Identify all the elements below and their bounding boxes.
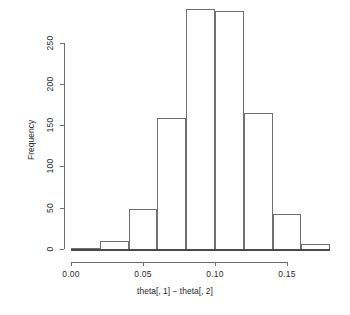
histogram-bars (0, 0, 350, 315)
histogram-plot: Frequency theta[, 1] − theta[, 2] 050100… (0, 0, 350, 315)
histogram-bar (186, 9, 215, 249)
histogram-bar (215, 11, 244, 249)
histogram-bar (157, 118, 186, 249)
histogram-baseline (71, 249, 330, 251)
histogram-bar (273, 214, 302, 249)
histogram-bar (244, 113, 273, 249)
histogram-bar (100, 241, 129, 249)
histogram-bar (129, 209, 158, 249)
